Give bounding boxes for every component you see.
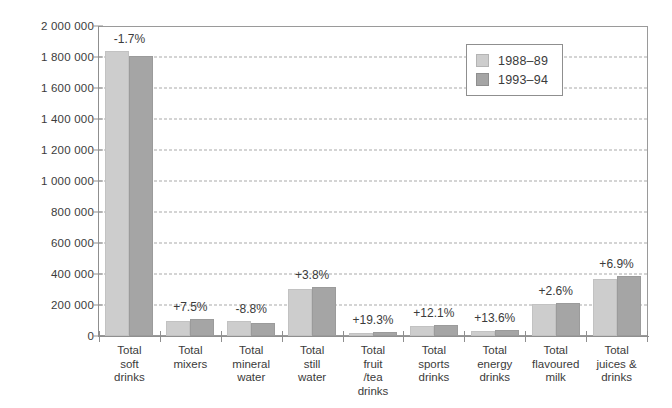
x-axis-category-line: drinks	[403, 371, 464, 385]
x-axis-line	[98, 336, 649, 337]
percent-change-label: +13.6%	[474, 311, 515, 325]
y-axis-tick-label: 1 800 000	[14, 51, 94, 63]
bar	[434, 325, 458, 336]
bar	[617, 276, 641, 336]
x-axis-category-label: Totalmixers	[160, 344, 221, 371]
percent-change-label: +6.9%	[599, 257, 633, 271]
legend-label-1993: 1993–94	[498, 73, 548, 87]
x-axis-category-line: juices &	[586, 358, 647, 372]
x-axis-category-line: still	[282, 358, 343, 372]
x-axis-category-line: mixers	[160, 358, 221, 372]
y-axis-tick-label: 1 000 000	[14, 175, 94, 187]
x-axis-tick-mark	[99, 331, 100, 342]
x-axis-category-line: energy	[464, 358, 525, 372]
bar	[227, 321, 251, 336]
x-axis-category-line: Total	[464, 344, 525, 358]
y-axis-tick-label: 1 600 000	[14, 82, 94, 94]
legend-item: 1988–89	[476, 51, 548, 70]
bar	[532, 304, 556, 336]
bar	[410, 326, 434, 336]
legend-item: 1993–94	[476, 70, 548, 89]
x-axis-category-line: water	[282, 371, 343, 385]
x-axis-category-line: Total	[343, 344, 404, 358]
x-axis-tick-mark	[647, 331, 648, 342]
percent-change-label: +7.5%	[173, 300, 207, 314]
y-axis-tick-label: 2 000 000	[14, 20, 94, 32]
x-axis-category-label: Totalsoftdrinks	[99, 344, 160, 385]
legend: 1988–89 1993–94	[466, 44, 563, 96]
legend-swatch-1988	[476, 54, 489, 67]
bar	[190, 319, 214, 336]
percent-change-label: +2.6%	[538, 284, 572, 298]
x-axis-category-line: Total	[525, 344, 586, 358]
percent-change-label: +19.3%	[352, 313, 393, 327]
x-axis-category-label: Totalfruit/teadrinks	[343, 344, 404, 398]
x-axis-category-line: Total	[221, 344, 282, 358]
x-axis-category-line: drinks	[464, 371, 525, 385]
x-axis-category-line: milk	[525, 371, 586, 385]
bar	[593, 279, 617, 336]
x-axis-category-line: Total	[282, 344, 343, 358]
y-axis-tick-label: 400 000	[14, 268, 94, 280]
bar-chart: 0200 000400 000600 000800 0001 000 0001 …	[0, 0, 672, 408]
legend-label-1988: 1988–89	[498, 54, 548, 68]
x-axis-category-line: drinks	[343, 385, 404, 399]
x-axis-category-label: Totalsportsdrinks	[403, 344, 464, 385]
percent-change-label: +3.8%	[295, 268, 329, 282]
legend-swatch-1993	[476, 73, 489, 86]
x-axis-category-line: sports	[403, 358, 464, 372]
x-axis-category-line: Total	[586, 344, 647, 358]
bar	[166, 321, 190, 337]
bar	[312, 287, 336, 336]
x-axis-tick-mark	[525, 331, 526, 342]
x-axis-category-line: flavoured	[525, 358, 586, 372]
x-axis-tick-mark	[221, 331, 222, 342]
y-axis-tick-label: 0	[14, 330, 94, 342]
x-axis-category-line: Total	[160, 344, 221, 358]
x-axis-category-line: water	[221, 371, 282, 385]
x-axis-category-label: Totalmineralwater	[221, 344, 282, 385]
x-axis-category-label: Totalflavouredmilk	[525, 344, 586, 385]
bar	[129, 56, 153, 336]
x-axis-category-line: drinks	[586, 371, 647, 385]
percent-change-label: +12.1%	[413, 306, 454, 320]
y-axis-tick-label: 1 400 000	[14, 113, 94, 125]
y-axis-tick-label: 600 000	[14, 237, 94, 249]
x-axis-category-line: fruit	[343, 358, 404, 372]
bar	[251, 323, 275, 336]
x-axis-tick-mark	[343, 331, 344, 342]
x-axis-category-line: /tea	[343, 371, 404, 385]
x-axis-category-line: Total	[99, 344, 160, 358]
x-axis-tick-mark	[586, 331, 587, 342]
x-axis-category-line: soft	[99, 358, 160, 372]
x-axis-tick-mark	[464, 331, 465, 342]
y-axis-tick-label: 1 200 000	[14, 144, 94, 156]
x-axis-category-line: mineral	[221, 358, 282, 372]
x-axis-category-line: Total	[403, 344, 464, 358]
x-axis-tick-mark	[282, 331, 283, 342]
x-axis-category-line: drinks	[99, 371, 160, 385]
percent-change-label: -1.7%	[114, 32, 145, 46]
x-axis-category-label: Totalenergydrinks	[464, 344, 525, 385]
bar	[288, 289, 312, 336]
x-axis-tick-mark	[403, 331, 404, 342]
x-axis-tick-mark	[160, 331, 161, 342]
bar	[556, 303, 580, 336]
x-axis-category-label: Totalstillwater	[282, 344, 343, 385]
y-axis-tick-label: 200 000	[14, 299, 94, 311]
bar	[105, 51, 129, 336]
percent-change-label: -8.8%	[236, 302, 267, 316]
x-axis-category-label: Totaljuices &drinks	[586, 344, 647, 385]
y-axis-tick-label: 800 000	[14, 206, 94, 218]
